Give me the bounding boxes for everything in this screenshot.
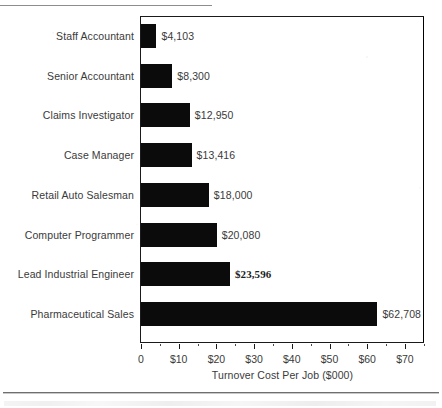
x-tick-label: $40 — [272, 352, 312, 366]
page-footer-text — [4, 401, 436, 406]
page-rule-top — [0, 5, 212, 6]
bar-value-label: $18,000 — [214, 183, 253, 207]
turnover-cost-bar-chart: Staff Accountant$4,103Senior Accountant$… — [0, 0, 442, 408]
bar-category-label: Claims Investigator — [0, 103, 134, 127]
x-tick-label: $20 — [196, 352, 236, 366]
x-tick-major — [405, 344, 406, 349]
bar-value-label: $23,596 — [235, 262, 271, 286]
bar — [141, 103, 190, 127]
bar-category-label: Case Manager — [0, 143, 134, 167]
x-tick-label: 0 — [121, 352, 161, 366]
x-tick-minor — [160, 344, 161, 346]
bar-value-label: $13,416 — [197, 143, 236, 167]
bar-value-label: $4,103 — [161, 24, 194, 48]
x-tick-label: $60 — [347, 352, 387, 366]
x-tick-minor — [424, 344, 425, 346]
bar — [141, 183, 209, 207]
bar-category-label: Computer Programmer — [0, 223, 134, 247]
bar-value-label: $62,708 — [382, 302, 421, 326]
x-tick-major — [330, 344, 331, 349]
x-tick-major — [216, 344, 217, 349]
x-tick-major — [179, 344, 180, 349]
bar — [141, 143, 192, 167]
x-tick-label: $10 — [159, 352, 199, 366]
x-tick-major — [254, 344, 255, 349]
x-tick-minor — [311, 344, 312, 346]
bar-category-label: Senior Accountant — [0, 64, 134, 88]
x-axis-title: Turnover Cost Per Job ($000) — [141, 369, 424, 381]
bar-category-label: Lead Industrial Engineer — [0, 262, 134, 286]
x-tick-label: $70 — [385, 352, 425, 366]
bar — [141, 302, 377, 326]
bar — [141, 223, 217, 247]
bar — [141, 24, 156, 48]
bar-value-label: $8,300 — [177, 64, 210, 88]
x-tick-minor — [198, 344, 199, 346]
bar-value-label: $12,950 — [195, 103, 234, 127]
x-tick-label: $30 — [234, 352, 274, 366]
x-tick-minor — [386, 344, 387, 346]
x-tick-minor — [273, 344, 274, 346]
x-tick-minor — [235, 344, 236, 346]
bar — [141, 64, 172, 88]
x-tick-label: $50 — [310, 352, 350, 366]
page-rule-bottom-shadow — [3, 393, 439, 394]
x-axis-ticks — [141, 344, 424, 349]
x-tick-major — [141, 344, 142, 349]
bar-category-label: Retail Auto Salesman — [0, 183, 134, 207]
x-tick-minor — [348, 344, 349, 346]
bar-value-label: $20,080 — [222, 223, 261, 247]
bar-category-label: Pharmaceutical Sales — [0, 302, 134, 326]
x-tick-major — [367, 344, 368, 349]
bar-category-label: Staff Accountant — [0, 24, 134, 48]
x-tick-major — [292, 344, 293, 349]
bar — [141, 262, 230, 286]
